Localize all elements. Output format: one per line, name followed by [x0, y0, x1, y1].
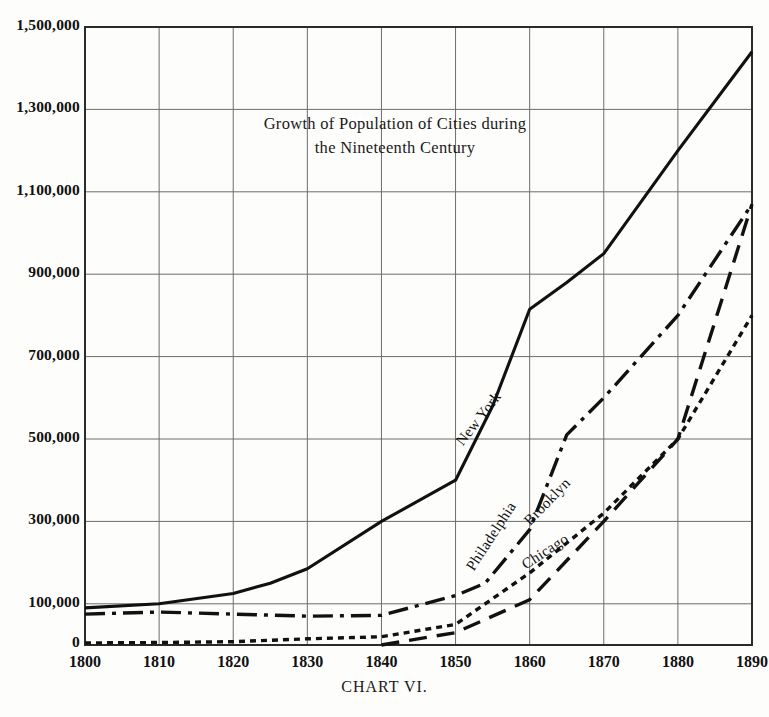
chart-title: Growth of Population of Cities during th…	[205, 112, 585, 160]
chart-caption: CHART VI.	[0, 678, 769, 696]
x-tick-label: 1850	[421, 653, 491, 671]
x-tick-label: 1890	[717, 653, 769, 671]
x-tick-label: 1800	[50, 653, 120, 671]
x-tick-label: 1830	[272, 653, 342, 671]
x-tick-label: 1880	[643, 653, 713, 671]
x-tick-label: 1860	[495, 653, 565, 671]
x-tick-label: 1840	[346, 653, 416, 671]
x-tick-label: 1870	[569, 653, 639, 671]
page-background: 0100,000300,000500,000700,000900,0001,10…	[0, 0, 769, 717]
x-axis-tick-labels: 1800181018201830184018501860187018801890	[0, 0, 769, 717]
chart-figure: 0100,000300,000500,000700,000900,0001,10…	[0, 0, 769, 717]
x-tick-label: 1810	[124, 653, 194, 671]
chart-title-line-2: the Nineteenth Century	[205, 136, 585, 160]
x-tick-label: 1820	[198, 653, 268, 671]
chart-title-line-1: Growth of Population of Cities during	[205, 112, 585, 136]
